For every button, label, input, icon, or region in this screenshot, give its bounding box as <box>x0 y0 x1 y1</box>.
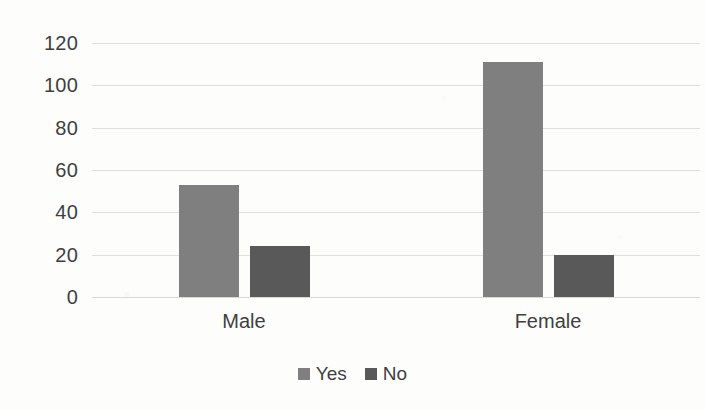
y-axis-tick-label: 40 <box>8 202 78 222</box>
gridline <box>92 128 700 129</box>
x-axis-tick-label-female: Female <box>515 310 582 332</box>
gridline <box>92 85 700 86</box>
legend-item-yes[interactable]: Yes <box>298 364 347 383</box>
chart-legend: YesNo <box>0 364 705 383</box>
bar-female-no <box>554 255 614 297</box>
legend-swatch-no-icon <box>365 368 377 380</box>
y-axis-tick-label: 80 <box>8 118 78 138</box>
bar-chart: 020406080100120 MaleFemale YesNo <box>0 0 705 409</box>
legend-swatch-yes-icon <box>298 368 310 380</box>
x-axis-tick-label-male: Male <box>222 310 265 332</box>
bar-male-no <box>250 246 310 297</box>
legend-label: No <box>383 364 407 383</box>
gridline <box>92 297 700 298</box>
x-axis: MaleFemale <box>92 310 700 342</box>
y-axis-tick-label: 60 <box>8 160 78 180</box>
bar-female-yes <box>483 62 543 297</box>
y-axis-tick-label: 120 <box>8 33 78 53</box>
y-axis-tick-label: 0 <box>8 287 78 307</box>
legend-item-no[interactable]: No <box>365 364 407 383</box>
gridline <box>92 43 700 44</box>
plot-area <box>92 43 700 297</box>
legend-label: Yes <box>316 364 347 383</box>
y-axis-tick-label: 20 <box>8 245 78 265</box>
gridline <box>92 170 700 171</box>
y-axis-tick-label: 100 <box>8 75 78 95</box>
y-axis: 020406080100120 <box>0 43 78 297</box>
bar-male-yes <box>179 185 239 297</box>
